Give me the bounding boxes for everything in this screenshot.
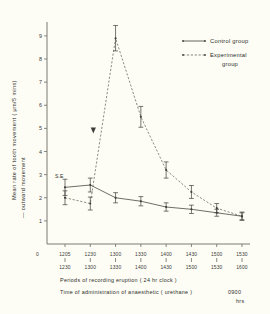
caption-anaesthetic-unit: hrs [236,298,244,304]
x-tick-label-end: 1500 [186,265,198,270]
y-axis-title-line2: — outward movement [20,157,26,218]
x-tick-label-end: 1300 [85,265,97,270]
caption-line-1: Periods of recording eruption ( 24 hr cl… [60,277,177,283]
x-tick-label-end: 1400 [135,265,147,270]
x-tick-label-start: 1205 [59,252,71,257]
legend-swatch-exp-dot-b [204,54,206,56]
control-point [64,186,66,188]
legend-label-control: Control group [210,38,248,44]
y-tick-label: 8 [39,56,42,62]
x-tick-label-end: 1430 [160,265,172,270]
y-axis-title-line1: Mean rate of tooth movement ( μm/5 mins) [11,80,17,200]
experimental-point [140,116,142,118]
x-tick-label-end: 1530 [211,265,223,270]
x-tick-label-start: 1400 [160,252,172,257]
y-tick-label: 1 [39,218,42,224]
x-tick-label-end: 1230 [59,265,71,270]
x-tick-label-end: 1330 [110,265,122,270]
standard-error-label: S.E [55,173,64,179]
caption-line-2: Time of administration of anaesthetic ( … [60,289,192,295]
x-tick-label-start: 1330 [135,252,147,257]
y-tick-label: 4 [39,149,42,155]
y-tick-label: 5 [39,125,42,131]
control-point [89,184,91,186]
x-tick-label-start: 1300 [110,252,122,257]
legend-swatch-exp-dot-a [182,54,184,56]
experimental-point [89,202,91,204]
y-tick-label: 7 [39,79,42,85]
y-tick-label: 9 [39,33,42,39]
experimental-point [64,197,66,199]
eruption-rate-line-chart: 123456789 120512301230130013001330133014… [0,0,270,314]
y-tick-label: 3 [39,172,42,178]
legend-swatch-control-dot-a [182,40,184,42]
y-tick-label: 2 [39,195,42,201]
y-tick-label: 6 [39,102,42,108]
caption-anaesthetic-time: 0900 [228,289,241,295]
control-point [140,200,142,202]
experimental-point [115,37,117,39]
x-tick-label-start: 1530 [236,252,248,257]
legend-swatch-control-dot-b [204,40,206,42]
figure-container: 123456789 120512301230130013001330133014… [0,0,270,314]
control-point [216,212,218,214]
experimental-point [216,207,218,209]
x-axis-origin-label: 0 [36,252,39,257]
x-tick-label-end: 1600 [236,265,248,270]
experimental-point [190,191,192,193]
control-point [241,215,243,217]
legend-label-experimental-line2: group [222,61,238,67]
control-point [190,208,192,210]
x-tick-label-start: 1500 [211,252,223,257]
x-tick-label-start: 1230 [85,252,97,257]
control-point [165,206,167,208]
control-point [115,197,117,199]
experimental-point [165,169,167,171]
x-tick-label-start: 1430 [186,252,198,257]
legend-label-experimental: Experimental [210,52,247,58]
